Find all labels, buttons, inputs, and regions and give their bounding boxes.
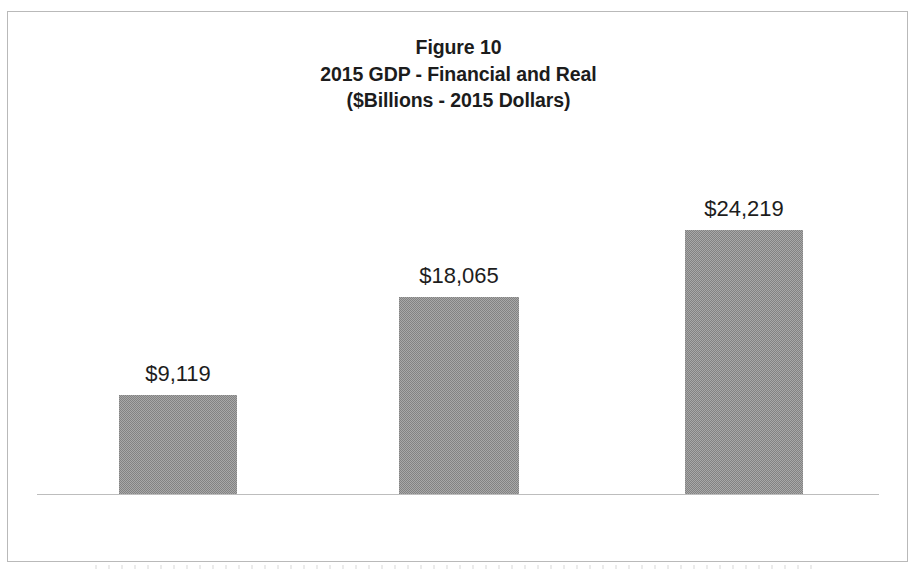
scan-artifact bbox=[95, 565, 815, 569]
bar-potential-gdp[interactable] bbox=[685, 230, 803, 494]
bar-real-economy[interactable] bbox=[119, 395, 237, 494]
figure-frame: Figure 10 2015 GDP - Financial and Real … bbox=[7, 11, 908, 562]
bar-value-label: $9,119 bbox=[145, 363, 211, 385]
bar-value-label: $18,065 bbox=[419, 265, 499, 287]
plot-area: $9,119 Real Economy $18,065 Official GDP… bbox=[8, 12, 909, 563]
bar-value-label: $24,219 bbox=[704, 198, 784, 220]
bar-official-gdp[interactable] bbox=[399, 297, 519, 494]
category-axis-line bbox=[37, 494, 879, 495]
